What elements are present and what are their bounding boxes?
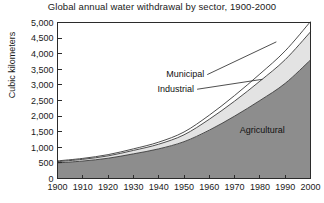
x-axis-tick-label: 1900 — [47, 182, 67, 192]
x-axis-tick-label: 1960 — [199, 182, 219, 192]
chart-container: Global annual water withdrawal by sector… — [0, 0, 324, 203]
y-axis-tick-label: 1,500 — [31, 127, 54, 137]
y-axis-tick-label: 2,500 — [31, 96, 54, 106]
x-axis-tick-label: 1980 — [250, 182, 270, 192]
y-axis-tick-label: 2,000 — [31, 111, 54, 121]
area-chart-svg: 05001,0001,5002,0002,5003,0003,5004,0004… — [0, 0, 324, 203]
x-axis-tick-label: 1950 — [174, 182, 194, 192]
x-axis-tick-label: 1940 — [149, 182, 169, 192]
series-annotation-agricultural: Agricultural — [240, 125, 285, 135]
y-axis-tick-label: 4,000 — [31, 49, 54, 59]
x-axis-tick-labels: 1900191019201930194019501960197019801990… — [47, 182, 320, 192]
x-axis-tick-label: 2000 — [300, 182, 320, 192]
x-axis-tick-label: 1970 — [225, 182, 245, 192]
x-axis-tick-label: 1910 — [73, 182, 93, 192]
y-axis-tick-labels: 05001,0001,5002,0002,5003,0003,5004,0004… — [31, 18, 54, 184]
y-axis-tick-label: 3,000 — [31, 80, 54, 90]
y-axis-tick-label: 4,500 — [31, 33, 54, 43]
y-axis-label: Cubic kilometers — [7, 5, 17, 125]
y-axis-tick-label: 5,000 — [31, 18, 54, 28]
x-axis-tick-label: 1920 — [98, 182, 118, 192]
y-axis-tick-label: 500 — [38, 158, 53, 168]
y-axis-tick-label: 1,000 — [31, 143, 54, 153]
stacked-areas — [58, 22, 311, 179]
page-title: Global annual water withdrawal by sector… — [0, 1, 324, 12]
series-annotation-municipal: Municipal — [166, 69, 204, 79]
x-axis-tick-label: 1990 — [275, 182, 295, 192]
series-annotation-industrial: Industrial — [158, 84, 195, 94]
x-axis-tick-label: 1930 — [123, 182, 143, 192]
y-axis-tick-label: 3,500 — [31, 65, 54, 75]
